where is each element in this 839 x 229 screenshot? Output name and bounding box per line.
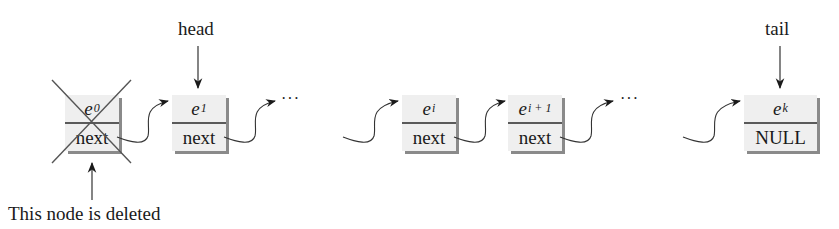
node-element: ei: [402, 95, 456, 122]
head-label: head: [178, 18, 214, 40]
node-e1: e1 next: [172, 95, 226, 151]
node-element: e1: [172, 95, 226, 122]
node-element: e0: [65, 95, 119, 122]
node-link: next: [65, 124, 119, 151]
node-ei-plus-1: ei + 1 next: [508, 95, 562, 151]
node-link: next: [172, 124, 226, 151]
node-ek: ek NULL: [744, 95, 817, 151]
ellipsis: ···: [620, 90, 639, 108]
link-arrow-icon: [343, 101, 398, 142]
link-arrow-icon: [224, 101, 275, 142]
tail-label: tail: [765, 18, 789, 40]
node-link: next: [402, 124, 456, 151]
link-arrow-icon: [117, 101, 168, 142]
node-ei: ei next: [402, 95, 456, 151]
deleted-annotation: This node is deleted: [8, 203, 161, 225]
node-link: NULL: [744, 124, 817, 151]
node-element: ek: [744, 95, 817, 122]
node-link: next: [508, 124, 562, 151]
ellipsis: ···: [281, 90, 300, 108]
node-e0: e0 next: [65, 95, 119, 151]
link-arrow-icon: [683, 101, 740, 142]
link-arrow-icon: [454, 101, 505, 142]
node-element: ei + 1: [508, 95, 562, 122]
link-arrow-icon: [560, 101, 613, 142]
